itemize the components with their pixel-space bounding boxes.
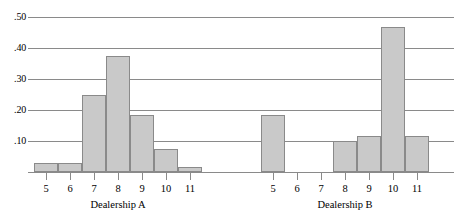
bar-b-10 xyxy=(381,27,405,172)
panel-caption-b: Dealership B xyxy=(285,199,405,211)
xtick-b-6 xyxy=(297,173,298,180)
bar-b-11 xyxy=(405,136,429,172)
xtick-label-a-8: 8 xyxy=(108,183,128,194)
xtick-b-8 xyxy=(345,173,346,180)
plot-area: .50 .40 .30 .20 .10 5 6 7 8 9 10 11 Deal… xyxy=(0,0,454,217)
xtick-a-10 xyxy=(166,173,167,180)
xtick-label-b-11: 11 xyxy=(407,183,427,194)
xtick-label-b-10: 10 xyxy=(383,183,403,194)
xtick-label-a-10: 10 xyxy=(156,183,176,194)
bar-a-7 xyxy=(82,95,106,172)
xtick-b-7 xyxy=(321,173,322,180)
xtick-a-7 xyxy=(94,173,95,180)
xtick-label-a-7: 7 xyxy=(84,183,104,194)
xtick-label-a-6: 6 xyxy=(60,183,80,194)
xtick-label-a-5: 5 xyxy=(36,183,56,194)
xtick-label-b-6: 6 xyxy=(287,183,307,194)
bar-a-9 xyxy=(130,115,154,172)
ytick-label-0.30: .30 xyxy=(2,74,26,84)
xtick-label-b-9: 9 xyxy=(359,183,379,194)
gridline-0.50 xyxy=(28,17,454,18)
bar-a-10 xyxy=(154,149,178,172)
bar-a-5 xyxy=(34,163,58,172)
xtick-b-11 xyxy=(417,173,418,180)
xtick-b-5 xyxy=(273,173,274,180)
xtick-a-9 xyxy=(142,173,143,180)
x-axis-baseline xyxy=(28,172,454,173)
bar-a-6 xyxy=(58,163,82,172)
histogram-figure: .50 .40 .30 .20 .10 5 6 7 8 9 10 11 Deal… xyxy=(0,0,454,217)
bar-b-5 xyxy=(261,115,285,172)
xtick-a-5 xyxy=(46,173,47,180)
xtick-b-9 xyxy=(369,173,370,180)
bar-b-9 xyxy=(357,136,381,172)
xtick-label-b-5: 5 xyxy=(263,183,283,194)
xtick-label-b-7: 7 xyxy=(311,183,331,194)
xtick-a-8 xyxy=(118,173,119,180)
bar-a-8 xyxy=(106,56,130,172)
ytick-label-0.10: .10 xyxy=(2,136,26,146)
xtick-a-11 xyxy=(190,173,191,180)
xtick-label-b-8: 8 xyxy=(335,183,355,194)
ytick-label-0.40: .40 xyxy=(2,43,26,53)
panel-caption-a: Dealership A xyxy=(58,199,178,211)
xtick-b-10 xyxy=(393,173,394,180)
ytick-label-0.50: .50 xyxy=(2,12,26,22)
xtick-label-a-11: 11 xyxy=(180,183,200,194)
xtick-a-6 xyxy=(70,173,71,180)
bar-b-8 xyxy=(333,141,357,172)
bar-a-11 xyxy=(178,167,202,172)
xtick-label-a-9: 9 xyxy=(132,183,152,194)
ytick-label-0.20: .20 xyxy=(2,105,26,115)
